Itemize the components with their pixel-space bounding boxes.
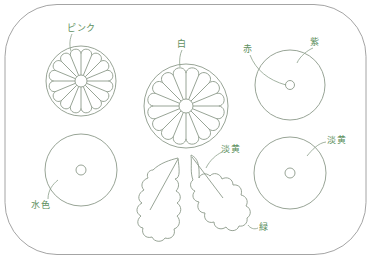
label-red: 赤 (243, 45, 253, 54)
label-green: 緑 (259, 223, 269, 232)
label-light-blue: 水色 (31, 201, 50, 210)
label-light-yellow-circle: 淡黄 (327, 136, 346, 145)
label-light-yellow-vein: 淡黄 (221, 145, 240, 154)
label-pink: ピンク (67, 24, 96, 33)
bottom-right-circle (254, 137, 326, 209)
bottom-left-circle (45, 134, 117, 206)
top-right-circle (250, 48, 325, 120)
label-white: 白 (177, 40, 187, 49)
white-chrysanthemum (144, 50, 228, 148)
left-leaf (137, 158, 181, 241)
label-purple: 紫 (310, 38, 320, 47)
pink-chrysanthemum (46, 34, 116, 116)
right-leaf (191, 152, 258, 231)
